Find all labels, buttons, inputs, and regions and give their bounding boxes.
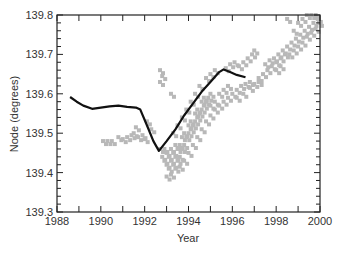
y-tick-label: 139.8 (25, 9, 53, 21)
scatter-point (308, 16, 312, 20)
data-line (70, 69, 245, 150)
y-tick-label: 139.7 (25, 48, 53, 60)
scatter-point (209, 99, 213, 103)
scatter-point (288, 48, 292, 52)
scatter-point (124, 140, 128, 144)
scatter-point (295, 32, 299, 36)
scatter-point (301, 36, 305, 40)
scatter-point (192, 130, 196, 134)
y-tick-label: 139.6 (25, 88, 53, 100)
scatter-point (303, 20, 307, 24)
scatter-point (293, 44, 297, 48)
scatter-point (203, 111, 207, 115)
scatter-point (181, 168, 185, 172)
scatter-point (264, 75, 268, 79)
x-tick-label: 1996 (220, 215, 244, 227)
scatter-point (190, 154, 194, 158)
y-axis-title: Node (degrees) (8, 76, 20, 152)
scatter-point (174, 134, 178, 138)
scatter-point (225, 103, 229, 107)
scatter-point (203, 130, 207, 134)
scatter-point (183, 118, 187, 122)
scatter-point (161, 83, 165, 87)
scatter-point (163, 77, 167, 81)
scatter-point (268, 71, 272, 75)
scatter-point (229, 99, 233, 103)
scatter-point (183, 150, 187, 154)
scatter-point (255, 85, 259, 89)
scatter-point (198, 118, 202, 122)
scatter-point (303, 44, 307, 48)
series-line (70, 69, 245, 150)
scatter-point (168, 178, 172, 182)
scatter-point (176, 170, 180, 174)
scatter-point (279, 55, 283, 59)
chart: 1988199019921994199619982000 139.3139.41… (0, 0, 343, 255)
scatter-point (299, 24, 303, 28)
scatter-point (187, 138, 191, 142)
scatter-point (216, 111, 220, 115)
scatter-point (297, 40, 301, 44)
scatter-point (295, 51, 299, 55)
scatter-point (200, 115, 204, 119)
scatter-point (194, 146, 198, 150)
y-tick-label: 139.5 (25, 127, 53, 139)
scatter-points (101, 13, 324, 182)
scatter-point (220, 95, 224, 99)
scatter-point (275, 59, 279, 63)
scatter-point (179, 126, 183, 130)
scatter-point (244, 95, 248, 99)
scatter-point (271, 61, 275, 65)
scatter-point (231, 65, 235, 69)
scatter-point (113, 142, 117, 146)
scatter-point (290, 55, 294, 59)
scatter-point (137, 128, 141, 132)
scatter-point (308, 38, 312, 42)
scatter-point (242, 87, 246, 91)
scatter-point (207, 122, 211, 126)
scatter-point (260, 79, 264, 83)
x-tick-label: 1994 (176, 215, 200, 227)
scatter-point (240, 67, 244, 71)
x-tick-label: 1990 (89, 215, 113, 227)
y-tick-label: 139.4 (25, 167, 53, 179)
scatter-point (211, 95, 215, 99)
scatter-point (161, 71, 165, 75)
y-axis-ticks: 139.3139.4139.5139.6139.7139.8 (25, 9, 320, 218)
scatter-point (185, 162, 189, 166)
scatter-point (148, 122, 152, 126)
scatter-point (277, 71, 281, 75)
scatter-point (196, 122, 200, 126)
scatter-point (172, 176, 176, 180)
x-axis-title: Year (177, 232, 200, 244)
scatter-point (198, 138, 202, 142)
scatter-point (244, 63, 248, 67)
scatter-point (288, 20, 292, 24)
scatter-point (312, 34, 316, 38)
scatter-point (284, 51, 288, 55)
x-tick-label: 2000 (308, 215, 332, 227)
x-tick-label: 1998 (264, 215, 288, 227)
scatter-point (172, 95, 176, 99)
scatter-point (211, 116, 215, 120)
scatter-point (299, 48, 303, 52)
y-tick-label: 139.3 (25, 206, 53, 218)
scatter-point (139, 138, 143, 142)
scatter-point (282, 59, 286, 63)
scatter-point (128, 138, 132, 142)
scatter-point (225, 91, 229, 95)
scatter-point (251, 89, 255, 93)
scatter-point (253, 55, 257, 59)
scatter-point (185, 146, 189, 150)
x-tick-label: 1992 (132, 215, 156, 227)
scatter-point (238, 91, 242, 95)
scatter-point (152, 130, 156, 134)
scatter-point (282, 67, 286, 71)
scatter-point (190, 134, 194, 138)
scatter-point (238, 99, 242, 103)
scatter-point (255, 51, 259, 55)
scatter-point (229, 87, 233, 91)
scatter-point (194, 126, 198, 130)
scatter-point (205, 107, 209, 111)
scatter-point (249, 59, 253, 63)
